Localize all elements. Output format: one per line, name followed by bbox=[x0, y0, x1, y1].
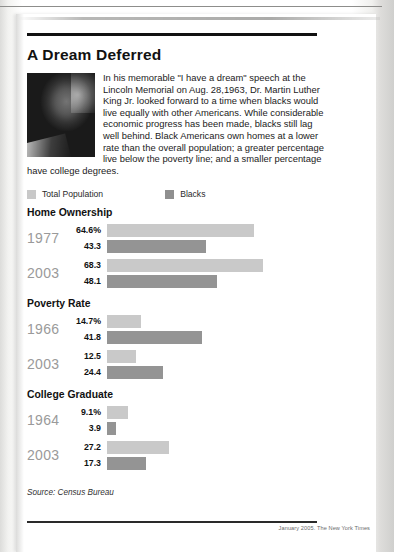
legend-item-blacks: Blacks bbox=[165, 189, 205, 199]
bar-total-population bbox=[107, 315, 141, 328]
row-year-label: 1977 bbox=[27, 230, 67, 246]
row-bars: 12.524.4 bbox=[67, 348, 327, 380]
legend-item-total-population: Total Population bbox=[27, 189, 103, 199]
page-title: A Dream Deferred bbox=[27, 46, 327, 64]
footer-rule bbox=[27, 521, 317, 523]
bar-total-population bbox=[107, 441, 169, 454]
group-title: College Graduate bbox=[27, 389, 327, 400]
bar-value-label: 14.7% bbox=[67, 316, 107, 326]
legend-swatch-total-population bbox=[27, 190, 36, 199]
bar-blacks bbox=[107, 422, 116, 435]
legend-label-total-population: Total Population bbox=[42, 189, 103, 199]
bar-value-label: 12.5 bbox=[67, 351, 107, 361]
bar-total-population bbox=[107, 224, 254, 237]
bar-line-total-population: 64.6% bbox=[67, 222, 327, 238]
group-title: Home Ownership bbox=[27, 207, 327, 218]
bar-total-population bbox=[107, 406, 128, 419]
top-hairline bbox=[0, 6, 382, 7]
martin-luther-king-jr-photo bbox=[27, 73, 95, 157]
bar-line-blacks: 48.1 bbox=[67, 273, 327, 289]
scan-smudge bbox=[18, 17, 380, 20]
group-title: Poverty Rate bbox=[27, 298, 327, 309]
chart-row: 196614.7%41.8 bbox=[27, 312, 327, 346]
row-year-label: 1966 bbox=[27, 321, 67, 337]
legend-swatch-blacks bbox=[165, 190, 174, 199]
bar-line-total-population: 27.2 bbox=[67, 439, 327, 455]
bar-line-total-population: 12.5 bbox=[67, 348, 327, 364]
bar-blacks bbox=[107, 275, 217, 288]
bar-blacks bbox=[107, 457, 146, 470]
bar-line-total-population: 68.3 bbox=[67, 257, 327, 273]
row-bars: 9.1%3.9 bbox=[67, 404, 327, 436]
headline-rule bbox=[27, 33, 317, 36]
row-year-label: 1964 bbox=[27, 412, 67, 428]
bar-value-label: 17.3 bbox=[67, 458, 107, 468]
bar-value-label: 41.8 bbox=[67, 332, 107, 342]
chart-row: 200312.524.4 bbox=[27, 347, 327, 381]
bar-blacks bbox=[107, 331, 202, 344]
row-year-label: 2003 bbox=[27, 265, 67, 281]
chart-row: 197764.6%43.3 bbox=[27, 221, 327, 255]
row-year-label: 2003 bbox=[27, 447, 67, 463]
bar-line-blacks: 17.3 bbox=[67, 455, 327, 471]
row-year-label: 2003 bbox=[27, 356, 67, 372]
row-bars: 68.348.1 bbox=[67, 257, 327, 289]
chart-legend: Total Population Blacks bbox=[27, 189, 327, 199]
bar-value-label: 43.3 bbox=[67, 241, 107, 251]
bar-value-label: 64.6% bbox=[67, 225, 107, 235]
row-bars: 64.6%43.3 bbox=[67, 222, 327, 254]
bar-line-total-population: 9.1% bbox=[67, 404, 327, 420]
source-note: Source: Census Bureau bbox=[27, 488, 327, 497]
chart-row: 200327.217.3 bbox=[27, 438, 327, 472]
bar-value-label: 27.2 bbox=[67, 442, 107, 452]
legend-label-blacks: Blacks bbox=[180, 189, 205, 199]
row-bars: 27.217.3 bbox=[67, 439, 327, 471]
bar-value-label: 48.1 bbox=[67, 276, 107, 286]
chart-groups: Home Ownership197764.6%43.3200368.348.1P… bbox=[27, 207, 327, 472]
infographic: A Dream Deferred In his memorable "I hav… bbox=[27, 33, 327, 497]
bar-value-label: 68.3 bbox=[67, 260, 107, 270]
bar-value-label: 3.9 bbox=[67, 423, 107, 433]
row-bars: 14.7%41.8 bbox=[67, 313, 327, 345]
credit-line: January 2005. The New York Times bbox=[279, 525, 370, 531]
chart-row: 200368.348.1 bbox=[27, 256, 327, 290]
bar-line-blacks: 24.4 bbox=[67, 364, 327, 380]
bar-total-population bbox=[107, 259, 263, 272]
bar-total-population bbox=[107, 350, 136, 363]
bar-line-blacks: 3.9 bbox=[67, 420, 327, 436]
bar-line-blacks: 43.3 bbox=[67, 238, 327, 254]
bar-value-label: 9.1% bbox=[67, 407, 107, 417]
chart-row: 19649.1%3.9 bbox=[27, 403, 327, 437]
bar-line-total-population: 14.7% bbox=[67, 313, 327, 329]
bar-line-blacks: 41.8 bbox=[67, 329, 327, 345]
bar-value-label: 24.4 bbox=[67, 367, 107, 377]
bar-blacks bbox=[107, 240, 206, 253]
bar-blacks bbox=[107, 366, 163, 379]
